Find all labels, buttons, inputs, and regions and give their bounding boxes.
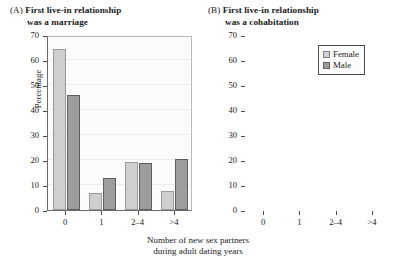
y-tick (241, 136, 245, 137)
x-tick-label: 2–4 (316, 218, 356, 227)
gridline (48, 84, 191, 85)
y-tick-label: 0 (211, 206, 237, 215)
x-tick-label: 1 (81, 218, 121, 227)
y-tick-label: 70 (211, 31, 237, 40)
y-tick (241, 86, 245, 87)
y-tick (241, 61, 245, 62)
gridline (48, 59, 191, 60)
y-tick-label: 20 (13, 156, 39, 165)
y-tick (241, 186, 245, 187)
y-tick (43, 211, 47, 212)
x-axis-title-line2: during adult dating years (0, 246, 396, 257)
panel-a-title-line2: was a marriage (27, 17, 196, 29)
bar-a-1-male (103, 178, 116, 211)
panel-a-tag: (A) (10, 5, 23, 15)
y-tick-label: 30 (211, 131, 237, 140)
legend: Female Male (318, 45, 365, 75)
x-tick (138, 211, 139, 215)
figure: (A) First live-in relationship was a mar… (0, 0, 396, 278)
legend-label-female: Female (333, 50, 359, 59)
y-tick-label: 70 (13, 31, 39, 40)
y-tick (43, 61, 47, 62)
panel-b-title: (B) First live-in relationship was a coh… (208, 5, 394, 28)
x-tick-label: 1 (279, 218, 319, 227)
plot-area-a (47, 36, 192, 211)
y-tick (241, 36, 245, 37)
x-axis-title: Number of new sex partners during adult … (0, 235, 396, 257)
x-tick-label: 0 (243, 218, 283, 227)
bar-a-2-female (125, 162, 138, 210)
y-tick-label: 30 (13, 131, 39, 140)
x-tick-label: >4 (154, 218, 194, 227)
y-tick-label: 20 (211, 156, 237, 165)
legend-label-male: Male (333, 61, 351, 70)
y-tick (43, 111, 47, 112)
bar-a-3-female (161, 191, 174, 211)
x-tick-label: 2–4 (118, 218, 158, 227)
legend-swatch-female-icon (323, 51, 330, 58)
y-tick (43, 161, 47, 162)
y-tick-label: 10 (211, 181, 237, 190)
bar-a-3-male (175, 159, 188, 210)
y-tick (241, 161, 245, 162)
panel-b-title-line1: First live-in relationship (223, 5, 319, 15)
x-tick (263, 211, 264, 215)
y-tick-label: 10 (13, 181, 39, 190)
y-tick-label: 0 (13, 206, 39, 215)
y-tick-label: 40 (211, 106, 237, 115)
x-tick (336, 211, 337, 215)
x-tick-label: 0 (45, 218, 85, 227)
x-tick-label: >4 (352, 218, 392, 227)
x-tick (174, 211, 175, 215)
plot-inner-a (48, 37, 191, 210)
y-tick-label: 50 (211, 81, 237, 90)
legend-item-female: Female (323, 49, 359, 60)
panel-a-title-line1: First live-in relationship (25, 5, 121, 15)
y-tick-label: 60 (13, 56, 39, 65)
y-tick (43, 186, 47, 187)
bar-a-1-female (89, 193, 102, 210)
x-tick (299, 211, 300, 215)
x-tick (65, 211, 66, 215)
y-tick (241, 111, 245, 112)
x-tick (372, 211, 373, 215)
y-tick-label: 40 (13, 106, 39, 115)
bar-a-0-female (53, 49, 66, 210)
x-tick (101, 211, 102, 215)
y-tick (43, 86, 47, 87)
panel-b-tag: (B) (208, 5, 220, 15)
y-tick (43, 36, 47, 37)
y-tick-label: 50 (13, 81, 39, 90)
y-tick-label: 60 (211, 56, 237, 65)
panel-b-title-line2: was a cohabitation (225, 17, 394, 29)
panel-a-title: (A) First live-in relationship was a mar… (10, 5, 196, 28)
y-tick (43, 136, 47, 137)
legend-item-male: Male (323, 60, 359, 71)
y-tick (241, 211, 245, 212)
x-axis-title-line1: Number of new sex partners (0, 235, 396, 246)
bar-a-0-male (67, 95, 80, 210)
legend-swatch-male-icon (323, 62, 330, 69)
bar-a-2-male (139, 163, 152, 211)
